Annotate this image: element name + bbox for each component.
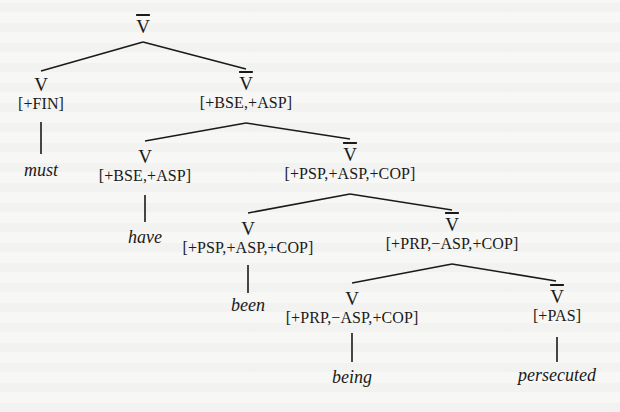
tree-node-root: V xyxy=(136,17,150,36)
category-v: V xyxy=(99,147,192,166)
terminal-word-been: been xyxy=(231,295,265,316)
category-v: V xyxy=(286,289,419,308)
feature-bundle: [+FIN] xyxy=(18,96,64,112)
edge-root-n2 xyxy=(143,42,246,69)
terminal-word-must: must xyxy=(24,160,58,181)
category-v: V xyxy=(18,75,64,94)
category-vbar: V xyxy=(533,287,581,306)
category-vbar: V xyxy=(200,74,293,93)
tree-node-n7: V [+PRP,−ASP,+COP] xyxy=(286,289,419,326)
tree-node-n4: V [+PSP,+ASP,+COP] xyxy=(285,145,416,182)
feature-bundle: [+PRP,−ASP,+COP] xyxy=(286,310,419,326)
edge-n2-n4 xyxy=(246,123,350,139)
edge-n6-n8 xyxy=(452,264,556,281)
feature-bundle: [+BSE,+ASP] xyxy=(200,95,293,111)
edge-root-n1 xyxy=(41,42,143,71)
category-v: V xyxy=(183,219,314,238)
edge-n4-n5 xyxy=(248,194,350,213)
category-vbar: V xyxy=(285,145,416,164)
category-vbar: V xyxy=(136,17,150,36)
edge-n6-n7 xyxy=(352,264,452,283)
feature-bundle: [+PSP,+ASP,+COP] xyxy=(285,166,416,182)
tree-edges xyxy=(0,0,620,412)
tree-node-n2: V [+BSE,+ASP] xyxy=(200,74,293,111)
feature-bundle: [+PAS] xyxy=(533,308,581,324)
feature-bundle: [+PSP,+ASP,+COP] xyxy=(183,240,314,256)
edge-n4-n6 xyxy=(350,194,452,210)
tree-node-n8: V [+PAS] xyxy=(533,287,581,324)
terminal-word-persecuted: persecuted xyxy=(518,365,596,386)
tree-node-n1: V [+FIN] xyxy=(18,75,64,112)
edge-n2-n3 xyxy=(145,123,246,141)
terminal-word-have: have xyxy=(128,227,162,248)
feature-bundle: [+BSE,+ASP] xyxy=(99,168,192,184)
category-vbar: V xyxy=(386,215,519,234)
tree-node-n3: V [+BSE,+ASP] xyxy=(99,147,192,184)
tree-node-n6: V [+PRP,−ASP,+COP] xyxy=(386,215,519,252)
tree-node-n5: V [+PSP,+ASP,+COP] xyxy=(183,219,314,256)
feature-bundle: [+PRP,−ASP,+COP] xyxy=(386,236,519,252)
terminal-word-being: being xyxy=(332,367,372,388)
